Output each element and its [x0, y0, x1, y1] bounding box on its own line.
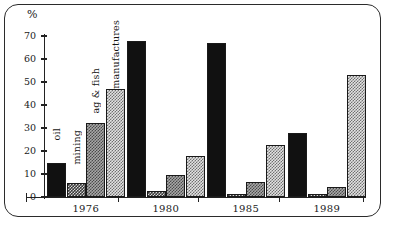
y-tick-label-60: 60	[16, 53, 36, 64]
x-axis-label-1976: 1976	[51, 203, 121, 214]
y-tick-mark-30	[41, 127, 47, 128]
x-axis-label-1989: 1989	[292, 203, 362, 214]
x-axis-label-1985: 1985	[211, 203, 281, 214]
series-label-oil: oil	[51, 128, 62, 140]
x-tick-mark-0	[26, 193, 27, 202]
y-tick-mark-50	[41, 81, 47, 82]
bar-mining-1989	[308, 194, 327, 197]
bar-mining-1976	[67, 183, 86, 197]
y-tick-label-20: 20	[16, 145, 36, 156]
y-tick-label-30: 30	[16, 122, 36, 133]
y-tick-label-10: 10	[16, 168, 36, 179]
bar-ag-fish-1989	[327, 187, 346, 197]
y-tick-mark-60	[41, 58, 47, 59]
series-label-manufactures: manufactures	[110, 20, 121, 89]
x-axis-line	[26, 197, 366, 198]
x-axis-label-1980: 1980	[131, 203, 201, 214]
y-axis-unit-label: %	[27, 8, 37, 21]
bar-ag-fish-1980	[166, 175, 185, 197]
bar-manufactures-1985	[266, 145, 285, 197]
y-tick-label-50: 50	[16, 76, 36, 87]
y-tick-mark-70	[41, 35, 47, 36]
bar-oil-1976	[47, 163, 66, 198]
y-tick-label-40: 40	[16, 99, 36, 110]
y-tick-mark-40	[41, 104, 47, 105]
bar-mining-1985	[227, 194, 246, 197]
series-label-ag-fish: ag & fish	[90, 68, 101, 114]
y-tick-mark-20	[41, 150, 47, 151]
bar-oil-1980	[127, 41, 146, 197]
bar-chart: % 706050403020100 oilminingag & fishmanu…	[0, 0, 393, 229]
bar-ag-fish-1976	[86, 123, 105, 197]
bar-oil-1989	[288, 133, 307, 197]
bar-manufactures-1980	[186, 156, 205, 197]
bar-ag-fish-1985	[246, 182, 265, 197]
y-tick-label-70: 70	[16, 30, 36, 41]
bar-manufactures-1989	[347, 75, 366, 197]
bar-oil-1985	[207, 43, 226, 197]
bar-manufactures-1976	[106, 89, 125, 197]
bar-mining-1980	[147, 191, 166, 197]
series-label-mining: mining	[71, 130, 82, 165]
